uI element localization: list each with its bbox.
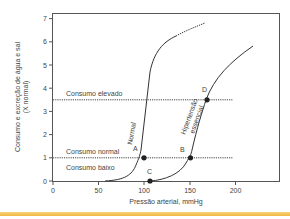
y-tick-1: 1 bbox=[43, 154, 47, 161]
y-tick-2: 2 bbox=[43, 131, 47, 138]
y-tick-5: 5 bbox=[43, 62, 47, 69]
curve-normal-dashed bbox=[176, 23, 205, 36]
point-a bbox=[141, 155, 146, 160]
curve-label-normal: Normal bbox=[126, 121, 137, 145]
y-axis bbox=[49, 19, 52, 181]
y-tick-4: 4 bbox=[43, 85, 47, 92]
point-b bbox=[188, 155, 193, 160]
point-d bbox=[204, 97, 209, 102]
label-consumo-elevado: Consumo elevado bbox=[66, 90, 123, 97]
plot-frame bbox=[53, 14, 280, 182]
point-c-label: C bbox=[147, 168, 152, 175]
y-tick-7: 7 bbox=[43, 15, 47, 22]
curve-normal bbox=[105, 36, 176, 181]
y-axis-sublabel: (X normal) bbox=[22, 81, 30, 114]
label-consumo-baixo: Consumo baixo bbox=[66, 164, 115, 171]
x-tick-150: 150 bbox=[184, 187, 196, 194]
x-tick-0: 0 bbox=[51, 187, 55, 194]
point-b-label: B bbox=[180, 146, 185, 153]
y-tick-3: 3 bbox=[43, 108, 47, 115]
x-tick-100: 100 bbox=[138, 187, 150, 194]
point-c bbox=[147, 178, 152, 183]
chart: 0 1 2 3 4 5 6 7 0 50 100 150 200 Pressão… bbox=[0, 0, 290, 219]
x-tick-200: 200 bbox=[230, 187, 242, 194]
point-d-label: D bbox=[202, 86, 207, 93]
y-tick-6: 6 bbox=[43, 38, 47, 45]
y-tick-0: 0 bbox=[43, 178, 47, 185]
x-axis-label: Pressão arterial, mmHg bbox=[129, 198, 203, 206]
x-tick-50: 50 bbox=[95, 187, 103, 194]
y-axis-label: Consumo e excreção de água e sal bbox=[14, 41, 22, 152]
point-a-label: A bbox=[133, 145, 138, 152]
label-consumo-normal: Consumo normal bbox=[66, 148, 120, 155]
decorative-bottom-bar bbox=[0, 212, 290, 216]
